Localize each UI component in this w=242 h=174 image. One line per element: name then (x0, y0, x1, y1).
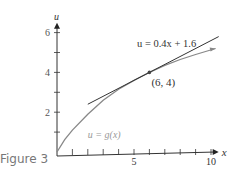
x-axis-label: x (221, 146, 227, 158)
tangent-equation-label: u = 0.4x + 1.6 (137, 38, 196, 49)
annotations: (6, 4)u = 0.4x + 1.6u = g(x) (88, 38, 196, 142)
x-tick-label: 5 (132, 156, 137, 167)
curve-label: u = g(x) (88, 129, 122, 141)
point-label: (6, 4) (151, 76, 175, 89)
y-tick-label: 2 (45, 107, 50, 118)
y-tick-label: 6 (45, 27, 50, 38)
x-axis-arrow-icon (213, 149, 219, 155)
point-marker (148, 71, 152, 75)
figure-caption: Figure 3 (0, 152, 48, 166)
plot-series (57, 37, 219, 152)
y-axis-arrow-icon (54, 23, 60, 29)
axes: xu510246 (45, 11, 227, 167)
curve-g (57, 49, 216, 153)
y-axis-label: u (54, 11, 59, 22)
figure-chart: xu510246 (6, 4)u = 0.4x + 1.6u = g(x) (0, 0, 242, 174)
y-tick-label: 4 (45, 67, 50, 78)
x-tick-label: 10 (206, 156, 216, 167)
